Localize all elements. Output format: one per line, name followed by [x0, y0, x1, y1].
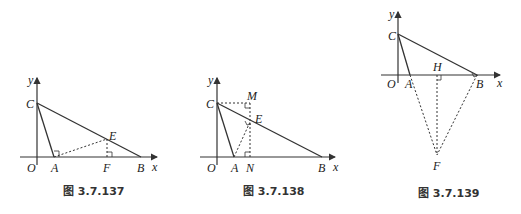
figure-caption: 图 3.7.139: [418, 187, 479, 200]
label-A: A: [50, 161, 59, 175]
label-C: C: [26, 97, 35, 111]
label-x: x: [151, 160, 158, 174]
label-A: A: [404, 77, 413, 91]
label-O: O: [207, 161, 216, 175]
label-y: y: [27, 73, 34, 87]
label-M: M: [246, 89, 258, 103]
label-A: A: [230, 161, 239, 175]
label-B: B: [137, 161, 145, 175]
figure-caption: 图 3.7.137: [63, 185, 124, 198]
label-C: C: [206, 97, 215, 111]
figure-3-7-137: y x O C A E F B 图 3.7.137: [20, 73, 158, 198]
figure-3-7-139: y x O C H A B F 图 3.7.139: [381, 7, 503, 200]
label-y: y: [207, 73, 214, 87]
label-H: H: [432, 60, 443, 74]
right-angle-mark-F: [107, 152, 112, 157]
right-angle-mark-A: [54, 151, 59, 157]
label-B: B: [476, 77, 484, 91]
label-O: O: [387, 77, 396, 91]
label-E: E: [254, 112, 263, 126]
label-x: x: [496, 76, 503, 90]
label-F: F: [102, 161, 111, 175]
segment-BF: [437, 75, 477, 155]
label-N: N: [245, 161, 255, 175]
segment-CB: [37, 103, 141, 157]
right-angle-mark-N: [245, 152, 250, 157]
segment-CB: [217, 103, 322, 157]
label-F: F: [432, 159, 441, 173]
label-B: B: [318, 161, 326, 175]
right-angle-mark-M: [245, 103, 250, 108]
label-E: E: [108, 129, 117, 143]
segment-AF: [410, 75, 437, 155]
figure-3-7-138: y x O C M E A N B 图 3.7.138: [200, 73, 339, 198]
label-O: O: [27, 161, 36, 175]
right-angle-mark-H: [437, 75, 441, 80]
segment-AE: [54, 139, 107, 157]
label-x: x: [332, 160, 339, 174]
segment-CA: [398, 34, 410, 75]
label-y: y: [388, 7, 395, 21]
figure-caption: 图 3.7.138: [243, 185, 304, 198]
label-C: C: [388, 29, 397, 43]
diagram-canvas: y x O C A E F B 图 3.7.137 y x O C M E A …: [0, 0, 521, 214]
